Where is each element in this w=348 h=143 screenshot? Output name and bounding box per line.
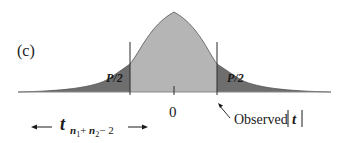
center-tick-label: 0 bbox=[169, 104, 177, 120]
df-subscript: n1+ n2− 2 bbox=[70, 124, 114, 139]
center-region bbox=[130, 12, 217, 92]
observed-annotation: Observed t bbox=[218, 103, 302, 127]
right-tail-label: P/2 bbox=[227, 71, 244, 85]
observed-symbol: t bbox=[292, 111, 297, 127]
left-tail-label: P/2 bbox=[106, 71, 123, 85]
df-label: t n1+ n2− 2 bbox=[31, 114, 148, 139]
df-variable: t bbox=[60, 114, 66, 134]
t-distribution-diagram: (c) P/2 P/2 0 t n1+ n2− 2 Observed t bbox=[0, 0, 348, 143]
observed-label: Observed bbox=[234, 112, 288, 127]
panel-label: (c) bbox=[17, 42, 35, 60]
